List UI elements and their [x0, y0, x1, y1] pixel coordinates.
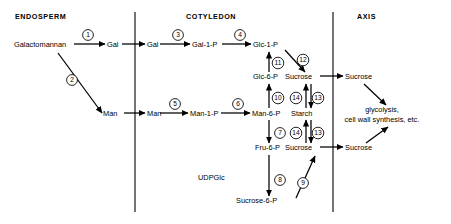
- pathway-diagram: ENDOSPERMCOTYLEDONAXIS GalactomannanGalM…: [0, 0, 451, 224]
- step-number-7: 7: [278, 129, 282, 136]
- galactomannan-to-man-endosperm-arrow: [58, 53, 102, 113]
- step-badge-8: 8: [275, 175, 286, 186]
- step-badge-10: 10: [272, 92, 284, 104]
- step-badge-1: 1: [83, 30, 94, 41]
- metabolite-gal-1-p: Gal-1-P: [192, 40, 218, 49]
- metabolite-sucrose-axis-bottom: Sucrose: [345, 143, 372, 152]
- step-badge-12: 12: [297, 54, 309, 66]
- compartment-title-cotyledon: COTYLEDON: [186, 12, 236, 21]
- metabolite-labels: GalactomannanGalManGalGal-1-PGlc-1-PGlc-…: [14, 40, 372, 205]
- sucrose-axis-bottom-to-fate-arrow: [366, 127, 388, 143]
- metabolite-galactomannan: Galactomannan: [14, 40, 66, 49]
- metabolite-glc-6-p: Glc-6-P: [253, 72, 278, 81]
- step-badge-2: 2: [67, 75, 78, 86]
- step-badge-6: 6: [233, 99, 244, 110]
- metabolite-sucrose-axis-top: Sucrose: [345, 72, 372, 81]
- metabolite-man-endo: Man: [103, 109, 117, 118]
- step-number-10: 10: [274, 94, 282, 101]
- metabolite-glc-1-p: Glc-1-P: [253, 40, 278, 49]
- glycolysis-fate-line-1: glycolysis,: [365, 105, 399, 114]
- step-number-3: 3: [176, 31, 180, 38]
- step-number-13: 13: [314, 129, 322, 136]
- glycolysis-fate-line-2: cell wall synthesis, etc.: [345, 115, 420, 124]
- step-number-14: 14: [292, 94, 300, 101]
- metabolite-sucrose-6-p: Sucrose-6-P: [236, 196, 277, 205]
- sucrose-axis-top-to-fate-arrow: [364, 84, 386, 105]
- step-number-6: 6: [236, 100, 240, 107]
- metabolite-gal-cot: Gal: [147, 40, 159, 49]
- step-badge-13: 13: [312, 92, 324, 104]
- section-titles: ENDOSPERMCOTYLEDONAXIS: [15, 12, 376, 21]
- compartment-title-axis: AXIS: [357, 12, 376, 21]
- step-badge-14: 14: [290, 127, 302, 139]
- step-number-4: 4: [238, 31, 242, 38]
- step-number-11: 11: [275, 59, 282, 66]
- fate-label: glycolysis,cell wall synthesis, etc.: [345, 105, 420, 124]
- step-badge-5: 5: [170, 99, 181, 110]
- step-number-1: 1: [86, 31, 90, 38]
- sucrose-6-p-to-sucrose-cotyledon-arrow: [296, 156, 315, 198]
- metabolite-man-1-p: Man-1-P: [190, 109, 218, 118]
- step-number-9: 9: [301, 179, 305, 186]
- step-number-14: 14: [292, 129, 300, 136]
- step-badge-11: 11: [272, 57, 284, 69]
- step-badge-3: 3: [173, 30, 184, 41]
- step-number-12: 12: [299, 56, 307, 63]
- step-badge-7: 7: [275, 128, 286, 139]
- metabolite-starch-cot: Starch: [291, 109, 312, 118]
- step-number-8: 8: [278, 176, 282, 183]
- step-number-13: 13: [314, 94, 322, 101]
- step-badge-4: 4: [235, 30, 246, 41]
- metabolite-sucrose-cot-top: Sucrose: [285, 72, 312, 81]
- metabolite-man-6-p: Man-6-P: [252, 109, 280, 118]
- pathway-svg: ENDOSPERMCOTYLEDONAXIS GalactomannanGalM…: [0, 0, 451, 224]
- step-number-2: 2: [70, 76, 74, 83]
- step-badge-13: 13: [312, 127, 324, 139]
- metabolite-man-cot: Man: [147, 109, 161, 118]
- metabolite-fru-6-p: Fru-6-P: [255, 143, 280, 152]
- metabolite-udpglc: UDPGlc: [198, 173, 225, 182]
- step-badge-14: 14: [290, 92, 302, 104]
- metabolite-sucrose-cot-bottom: Sucrose: [285, 143, 312, 152]
- compartment-title-endosperm: ENDOSPERM: [15, 12, 66, 21]
- step-number-5: 5: [173, 100, 177, 107]
- metabolite-gal-endo: Gal: [107, 40, 119, 49]
- step-badge-9: 9: [298, 178, 309, 189]
